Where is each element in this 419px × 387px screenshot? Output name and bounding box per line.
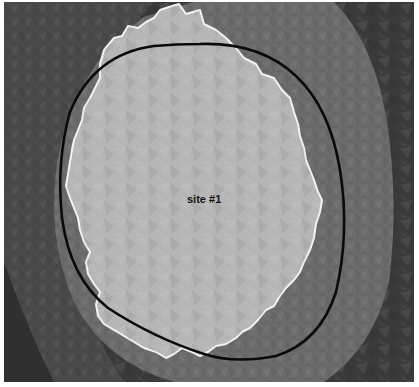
terrain-map: site #1	[4, 2, 414, 382]
terrain-map-canvas	[4, 2, 414, 382]
site-label: site #1	[187, 193, 221, 205]
